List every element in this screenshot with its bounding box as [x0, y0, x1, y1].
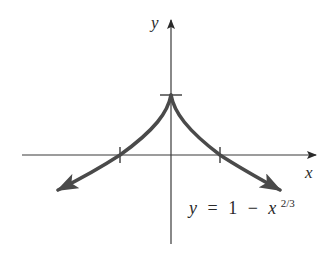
- eq-var: x: [267, 198, 276, 218]
- eq-lhs: y: [187, 198, 197, 218]
- eq-equals: =: [208, 198, 218, 218]
- equation-label: y = 1 − x 2/3: [187, 197, 295, 218]
- eq-exponent: 2/3: [281, 197, 296, 209]
- x-axis-label: x: [304, 163, 313, 182]
- y-axis-label: y: [149, 13, 159, 32]
- eq-minus: −: [248, 198, 258, 218]
- graph: y x y = 1 − x 2/3: [0, 0, 334, 255]
- curve-left-branch: [58, 95, 171, 190]
- eq-one: 1: [228, 198, 237, 218]
- curve-right-branch: [171, 95, 280, 190]
